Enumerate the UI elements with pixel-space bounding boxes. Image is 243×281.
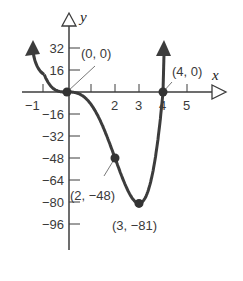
x-axis-arrow-icon	[212, 85, 226, 99]
y-axis-label: y	[78, 9, 87, 25]
labeled-points: (0, 0)(4, 0)(2, −48)(3, −81)	[63, 46, 203, 233]
x-tick-label: −1	[25, 98, 40, 113]
y-tick-label: −16	[42, 107, 64, 122]
point-marker	[135, 199, 144, 208]
y-axis-arrow-icon	[62, 13, 76, 26]
y-tick-label: −32	[42, 129, 64, 144]
graph-figure: x y −123453216−16−32−48−64−80−96 (0, 0)(…	[0, 0, 243, 281]
point-label: (3, −81)	[112, 218, 157, 233]
y-tick-label: −48	[42, 151, 64, 166]
point-marker	[63, 88, 72, 97]
x-tick-label: 5	[183, 98, 190, 113]
y-tick-label: −80	[42, 195, 64, 210]
y-tick-label: −64	[42, 173, 64, 188]
right-arrow-icon	[156, 40, 171, 56]
x-tick-label: 3	[135, 98, 142, 113]
point-marker	[159, 88, 168, 97]
x-tick-label: 2	[111, 98, 118, 113]
x-axis-label: x	[211, 67, 219, 83]
point-label: (2, −48)	[70, 188, 115, 203]
y-tick-label: 16	[50, 63, 64, 78]
point-label: (0, 0)	[81, 46, 111, 61]
point-label: (4, 0)	[172, 64, 202, 79]
y-tick-label: 32	[50, 41, 64, 56]
y-tick-label: −96	[42, 217, 64, 232]
point-marker	[111, 154, 120, 163]
